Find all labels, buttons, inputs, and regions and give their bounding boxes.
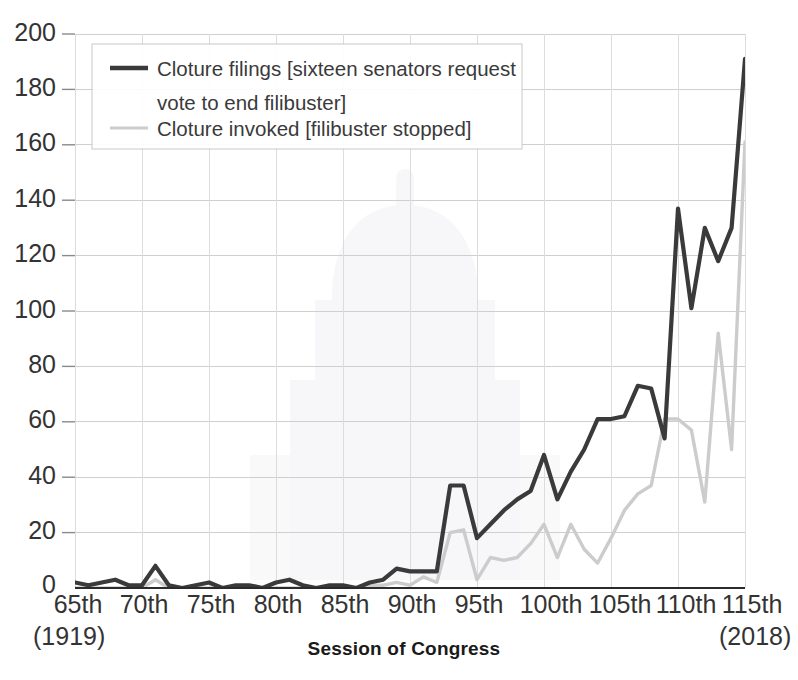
- y-tick-200: 200: [14, 18, 56, 46]
- x-tick-95th: 95th: [455, 590, 504, 618]
- chart-legend: Cloture filings [sixteen senators reques…: [92, 44, 522, 149]
- x-axis-labels: 65th 70th 75th 80th 85th 90th 95th 100th…: [54, 590, 783, 618]
- x-tick-80th: 80th: [254, 590, 303, 618]
- legend-label-cloture-filings-line1: Cloture filings [sixteen senators reques…: [157, 57, 516, 80]
- x-tick-85th: 85th: [321, 590, 370, 618]
- y-tick-80: 80: [28, 350, 56, 378]
- capitol-dome-watermark: [250, 169, 560, 580]
- y-tick-120: 120: [14, 239, 56, 267]
- y-axis-labels: 200 180 160 140 120 100 80 60 40 20 0: [14, 18, 56, 598]
- y-tick-140: 140: [14, 184, 56, 212]
- x-tick-115th: 115th: [722, 590, 783, 618]
- y-tick-160: 160: [14, 128, 56, 156]
- legend-label-cloture-filings-line2: vote to end filibuster]: [157, 91, 346, 114]
- y-tick-40: 40: [28, 461, 56, 489]
- x-tick-100th: 100th: [520, 590, 583, 618]
- x-axis-start-year: (1919): [33, 622, 105, 650]
- y-tick-marks: [62, 34, 75, 533]
- legend-label-cloture-invoked: Cloture invoked [filibuster stopped]: [157, 117, 472, 140]
- x-tick-70th: 70th: [120, 590, 169, 618]
- y-tick-100: 100: [14, 295, 56, 323]
- x-tick-90th: 90th: [388, 590, 437, 618]
- x-tick-105th: 105th: [589, 590, 652, 618]
- x-tick-65th: 65th: [54, 590, 103, 618]
- x-axis-title: Session of Congress: [308, 638, 501, 659]
- x-axis-end-year: (2018): [719, 622, 791, 650]
- x-tick-110th: 110th: [656, 590, 717, 618]
- y-tick-60: 60: [28, 405, 56, 433]
- y-tick-180: 180: [14, 73, 56, 101]
- line-chart: 200 180 160 140 120 100 80 60 40 20 0 65…: [0, 0, 798, 680]
- x-tick-75th: 75th: [187, 590, 236, 618]
- y-tick-20: 20: [28, 516, 56, 544]
- chart-container: 200 180 160 140 120 100 80 60 40 20 0 65…: [0, 0, 798, 680]
